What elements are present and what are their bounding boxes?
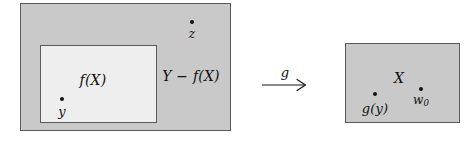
label-point-z: z (189, 28, 196, 40)
point-g-of-y-dot (373, 92, 377, 96)
label-point-w0: w0 (413, 94, 429, 108)
point-z-dot (190, 20, 194, 24)
label-x: X (394, 71, 404, 85)
label-y-minus-f-of-x: Y − f(X) (162, 69, 220, 83)
label-point-g-of-y: g(y) (362, 102, 389, 115)
label-point-y: y (58, 105, 66, 118)
mapping-arrow-group: g (258, 60, 314, 94)
point-w0-dot (419, 87, 423, 91)
label-f-of-x: f(X) (80, 73, 107, 87)
label-arrow-g: g (281, 66, 290, 79)
point-y-dot (60, 97, 64, 101)
set-mapping-diagram: f(X) y z Y − f(X) g X g(y) w0 (0, 0, 475, 145)
label-point-w0-subscript: 0 (423, 98, 429, 108)
label-point-w0-base: w (413, 93, 423, 107)
